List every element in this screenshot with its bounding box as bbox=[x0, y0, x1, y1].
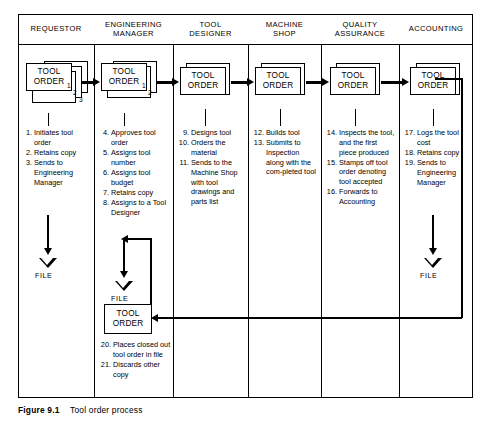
column-header-tool-designer-line2: DESIGNER bbox=[189, 30, 231, 38]
copy-number-2: 2 bbox=[73, 90, 77, 97]
document-stack-requestor: TOOL ORDER 1 2 3 bbox=[26, 61, 90, 113]
step-text: Logs the tool cost bbox=[417, 128, 459, 147]
copy-number-1: 1 bbox=[67, 83, 71, 90]
feedback-loop-vertical-right bbox=[461, 78, 463, 318]
step-number: 4. bbox=[99, 128, 109, 138]
column-divider-3 bbox=[248, 45, 249, 398]
step-text: Assigns to a Tool Designer bbox=[111, 198, 166, 217]
step-item: 16.Forwards to Accounting bbox=[325, 187, 395, 207]
requestor-file-line bbox=[47, 215, 49, 250]
column-divider-4 bbox=[321, 45, 322, 398]
step-number: 21. bbox=[99, 360, 111, 370]
copy-number-3: 3 bbox=[79, 97, 83, 104]
step-item: 2.Retains copy bbox=[22, 148, 90, 158]
step-item: 10.Orders the material bbox=[177, 138, 245, 158]
step-text: Forwards to Accounting bbox=[339, 187, 378, 206]
file-label-requestor: FILE bbox=[35, 271, 52, 280]
step-number: 18. bbox=[403, 148, 415, 158]
file-symbol-engineering-manager bbox=[115, 281, 133, 291]
step-item: 5.Assigns tool number bbox=[99, 148, 169, 168]
step-number: 2. bbox=[22, 148, 32, 158]
document-sheet-front-accounting: TOOL ORDER bbox=[410, 67, 456, 95]
step-number: 1. bbox=[22, 128, 32, 138]
step-item: 20.Places closed out tool order in file bbox=[99, 340, 171, 360]
document-label-line2: ORDER bbox=[188, 81, 219, 91]
step-number: 16. bbox=[325, 187, 337, 197]
document-label-line1: TOOL bbox=[267, 71, 290, 81]
stem-requestor bbox=[48, 113, 49, 126]
column-header-requestor-line1: REQUESTOR bbox=[30, 25, 81, 33]
step-text: Submits to Inspection along with the com… bbox=[266, 138, 316, 176]
column-divider-1 bbox=[94, 45, 95, 398]
column-header-accounting: ACCOUNTING bbox=[399, 14, 473, 45]
stem-accounting bbox=[433, 109, 434, 126]
document-sheet-front-machine-shop: TOOL ORDER bbox=[255, 67, 301, 95]
document-label-line2: ORDER bbox=[34, 77, 65, 87]
stem-machine-shop bbox=[280, 109, 281, 126]
step-item: 4.Approves tool order bbox=[99, 128, 169, 148]
stem-tool-designer bbox=[205, 109, 206, 126]
copy-number-1: 1 bbox=[142, 83, 146, 90]
step-item: 13.Submits to Inspection along with the … bbox=[252, 138, 318, 177]
step-text: Sends to Engineering Manager bbox=[34, 158, 73, 187]
step-list-tool-designer: 9.Designs tool 10.Orders the material 11… bbox=[177, 128, 245, 207]
step-text: Sends to Engineering Manager bbox=[417, 158, 456, 187]
engineering-manager-file-arrowhead bbox=[120, 271, 128, 278]
step-number: 11. bbox=[177, 158, 189, 168]
file-symbol-accounting bbox=[424, 258, 442, 268]
column-header-tool-designer: TOOL DESIGNER bbox=[173, 14, 248, 45]
step-item: 7.Retains copy bbox=[99, 188, 169, 198]
step-number: 9. bbox=[177, 128, 189, 138]
document-stack-tool-designer: TOOL ORDER bbox=[180, 63, 240, 109]
document-label-line1: TOOL bbox=[192, 71, 215, 81]
step-list-engineering-manager: 4.Approves tool order 5.Assigns tool num… bbox=[99, 128, 169, 218]
document-label-line2: ORDER bbox=[418, 81, 449, 91]
step-text: Initiates tool order bbox=[34, 128, 73, 147]
document-label-line1: TOOL bbox=[117, 309, 140, 319]
step-number: 6. bbox=[99, 168, 109, 178]
column-header-machine-shop: MACHINE SHOP bbox=[248, 14, 321, 45]
figure-caption-text: Tool order process bbox=[70, 405, 143, 415]
step-number: 7. bbox=[99, 188, 109, 198]
column-header-requestor: REQUESTOR bbox=[18, 14, 94, 45]
document-stack-engineering-manager: TOOL ORDER 1 2 bbox=[101, 61, 165, 113]
step-number: 14. bbox=[325, 128, 337, 138]
step-number: 10. bbox=[177, 138, 189, 148]
engineering-manager-file-line bbox=[123, 239, 125, 273]
step-item: 3.Sends to Engineering Manager bbox=[22, 158, 90, 187]
flowchart-diagram: REQUESTOR ENGINEERING MANAGER TOOL DESIG… bbox=[0, 0, 495, 421]
step-text: Inspects the tool, and the first piece p… bbox=[339, 128, 394, 157]
document-label-line2: ORDER bbox=[338, 81, 369, 91]
feedback-loop-horizontal bbox=[153, 317, 462, 319]
file-symbol-requestor bbox=[39, 258, 57, 268]
step-number: 8. bbox=[99, 198, 109, 208]
document-sheet-front-engineering-manager: TOOL ORDER bbox=[101, 63, 147, 91]
step-list-requestor: 1.Initiates tool order 2.Retains copy 3.… bbox=[22, 128, 90, 188]
document-label-line1: TOOL bbox=[342, 71, 365, 81]
step-number: 17. bbox=[403, 128, 415, 138]
step-list-machine-shop: 12.Builds tool 13.Submits to Inspection … bbox=[252, 128, 318, 178]
file-label-accounting: FILE bbox=[420, 271, 437, 280]
requestor-file-arrowhead bbox=[44, 248, 52, 255]
accounting-file-line bbox=[432, 215, 434, 250]
document-sheet-front-tool-designer: TOOL ORDER bbox=[180, 67, 226, 95]
document-label-line1: TOOL bbox=[38, 67, 61, 77]
document-sheet-front-quality-assurance: TOOL ORDER bbox=[330, 67, 376, 95]
document-stack-quality-assurance: TOOL ORDER bbox=[330, 63, 390, 109]
column-divider-5 bbox=[399, 45, 400, 398]
copy-number-2: 2 bbox=[148, 90, 152, 97]
step-text: Stamps off tool order denoting tool acce… bbox=[339, 158, 388, 187]
step-item: 18.Retains copy bbox=[403, 148, 463, 158]
document-label-line2: ORDER bbox=[109, 77, 140, 87]
file-label-engineering-manager: FILE bbox=[111, 294, 128, 303]
step-number: 20. bbox=[99, 340, 111, 350]
document-stack-machine-shop: TOOL ORDER bbox=[255, 63, 315, 109]
step-text: Places closed out tool order in file bbox=[113, 340, 170, 359]
step-text: Discards other copy bbox=[113, 360, 160, 379]
document-label-line1: TOOL bbox=[113, 67, 136, 77]
step-item: 11.Sends to the Machine Shop with tool d… bbox=[177, 158, 245, 207]
step-text: Builds tool bbox=[266, 128, 300, 137]
step-number: 13. bbox=[252, 138, 264, 148]
step-item: 19.Sends to Engineering Manager bbox=[403, 158, 463, 187]
step-number: 15. bbox=[325, 158, 337, 168]
